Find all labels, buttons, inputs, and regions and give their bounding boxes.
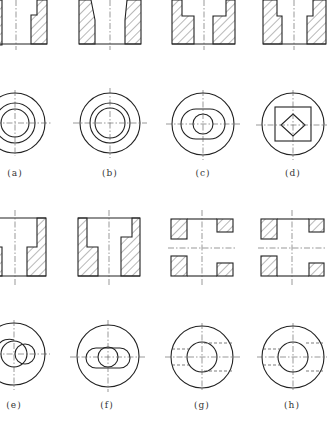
panel-d-top-view — [256, 90, 327, 160]
panel-f-top-view — [70, 320, 146, 392]
panel-c-top-view — [166, 90, 240, 160]
label-e: (e) — [6, 400, 21, 410]
label-c: (c) — [195, 168, 210, 178]
panel-b-top-view — [73, 88, 147, 158]
panel-h-front-view — [258, 210, 327, 285]
panel-e-front-view — [0, 210, 46, 285]
panel-e-top-view — [0, 320, 50, 390]
drawing-canvas — [0, 0, 327, 423]
panel-a-front-view — [0, 0, 47, 50]
label-f: (f) — [100, 400, 113, 410]
panel-g-top-view — [165, 323, 240, 392]
panel-b-front-view — [79, 0, 141, 50]
panel-a-top-view — [0, 90, 52, 156]
label-d: (d) — [285, 168, 301, 178]
panel-g-front-view — [168, 210, 237, 285]
panel-h-top-view — [257, 323, 327, 392]
label-g: (g) — [194, 400, 210, 410]
label-h: (h) — [284, 400, 300, 410]
panel-f-front-view — [78, 210, 140, 285]
panel-d-front-view — [263, 0, 326, 50]
label-b: (b) — [102, 168, 118, 178]
label-a: (a) — [7, 168, 22, 178]
panel-c-front-view — [172, 0, 235, 50]
